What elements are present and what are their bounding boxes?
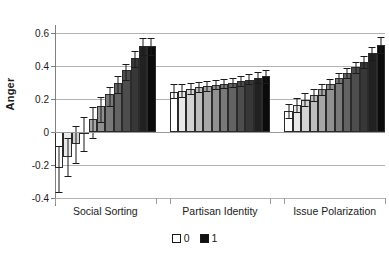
bar-item[interactable] [170, 33, 178, 198]
bar-item[interactable] [237, 33, 245, 198]
error-bar [182, 84, 183, 97]
bar-item[interactable] [228, 33, 236, 198]
bar-item[interactable] [293, 33, 301, 198]
error-bar [232, 78, 233, 88]
error-cap-top [344, 68, 351, 69]
bar[interactable] [147, 46, 155, 132]
category-tick [55, 198, 56, 204]
x-axis-line [55, 198, 385, 199]
error-cap-top [64, 138, 71, 139]
bar-item[interactable] [360, 33, 368, 198]
bar[interactable] [203, 86, 211, 132]
error-cap-bottom [140, 55, 147, 56]
bar[interactable] [220, 84, 228, 132]
bar-item[interactable] [178, 33, 186, 198]
bar-item[interactable] [220, 33, 228, 198]
bar-item[interactable] [301, 33, 309, 198]
error-bar [143, 38, 144, 55]
error-cap-bottom [335, 83, 342, 84]
bar[interactable] [131, 58, 139, 132]
error-bar [249, 74, 250, 84]
error-bar [355, 62, 356, 73]
bar-item[interactable] [343, 33, 351, 198]
bar-item[interactable] [105, 33, 113, 198]
error-bar [296, 98, 297, 112]
bar-item[interactable] [245, 33, 253, 198]
bar-item[interactable] [147, 33, 155, 198]
bar-item[interactable] [186, 33, 194, 198]
error-bar [380, 37, 381, 54]
bar[interactable] [237, 81, 245, 132]
bar-item[interactable] [139, 33, 147, 198]
error-cap-bottom [148, 55, 155, 56]
error-cap-bottom [64, 176, 71, 177]
y-tick-label: 0.6 [35, 28, 49, 39]
bar-item[interactable] [262, 33, 270, 198]
error-cap-top [221, 79, 228, 80]
bar-item[interactable] [326, 33, 334, 198]
bar[interactable] [212, 85, 220, 132]
error-bar [101, 97, 102, 123]
error-cap-top [114, 76, 121, 77]
error-cap-top [254, 72, 261, 73]
error-bar [224, 79, 225, 88]
error-bar [126, 64, 127, 81]
bar[interactable] [254, 78, 262, 132]
y-tick-label: 0.2 [35, 94, 49, 105]
bar-item[interactable] [212, 33, 220, 198]
error-bar [257, 72, 258, 83]
bar-item[interactable] [203, 33, 211, 198]
error-cap-bottom [302, 106, 309, 107]
error-cap-bottom [352, 73, 359, 74]
error-cap-top [237, 76, 244, 77]
bar[interactable] [262, 76, 270, 132]
bar-item[interactable] [97, 33, 105, 198]
bar-item[interactable] [310, 33, 318, 198]
error-bar [313, 89, 314, 101]
bar[interactable] [186, 89, 194, 132]
bar[interactable] [139, 46, 147, 132]
error-cap-top [148, 38, 155, 39]
bar[interactable] [377, 45, 385, 132]
bar-item[interactable] [63, 33, 71, 198]
bar-item[interactable] [284, 33, 292, 198]
error-bar [364, 56, 365, 68]
legend-swatch-white-icon [172, 234, 181, 243]
bar[interactable] [326, 84, 334, 132]
bar-item[interactable] [80, 33, 88, 198]
bar-item[interactable] [351, 33, 359, 198]
error-bar [372, 47, 373, 61]
bar[interactable] [335, 78, 343, 132]
bar-item[interactable] [89, 33, 97, 198]
bar-item[interactable] [131, 33, 139, 198]
error-bar [347, 68, 348, 79]
bar-item[interactable] [72, 33, 80, 198]
bar[interactable] [195, 87, 203, 132]
bar-item[interactable] [55, 33, 63, 198]
bar[interactable] [368, 53, 376, 132]
bar[interactable] [360, 62, 368, 132]
error-bar [190, 83, 191, 95]
zero-line [55, 132, 385, 133]
bar[interactable] [343, 73, 351, 132]
bar-item[interactable] [122, 33, 130, 198]
legend-label-0: 0 [184, 232, 190, 244]
bar-item[interactable] [368, 33, 376, 198]
error-cap-top [310, 89, 317, 90]
error-cap-top [293, 98, 300, 99]
bar-item[interactable] [318, 33, 326, 198]
error-cap-top [319, 84, 326, 85]
error-cap-top [327, 79, 334, 80]
bar-item[interactable] [377, 33, 385, 198]
error-cap-bottom [310, 101, 317, 102]
bar[interactable] [228, 83, 236, 133]
bar[interactable] [245, 80, 253, 132]
bar-item[interactable] [254, 33, 262, 198]
error-cap-top [302, 93, 309, 94]
bar-item[interactable] [195, 33, 203, 198]
bar-item[interactable] [114, 33, 122, 198]
error-cap-top [285, 104, 292, 105]
bar[interactable] [351, 67, 359, 132]
chart-legend: 0 1 [0, 232, 389, 244]
bar-item[interactable] [335, 33, 343, 198]
